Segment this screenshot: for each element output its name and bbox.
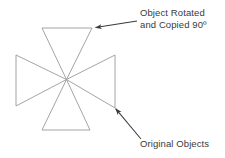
rotated-object-label-line2: and Copied 90º <box>140 19 207 31</box>
rotated-callout-arrow <box>96 21 138 28</box>
top-triangle <box>42 28 92 80</box>
pinwheel-shape-group <box>16 28 115 130</box>
rotated-object-label: Object Rotated and Copied 90º <box>140 7 207 30</box>
rotated-object-label-line1: Object Rotated <box>140 7 207 19</box>
bottom-triangle <box>42 80 90 131</box>
diagram-canvas: Object Rotated and Copied 90º Original O… <box>0 0 225 158</box>
right-triangle <box>67 55 116 108</box>
original-callout-arrow <box>116 109 141 139</box>
original-objects-label: Original Objects <box>140 138 209 150</box>
callout-arrow-group <box>96 21 142 139</box>
original-objects-label-line1: Original Objects <box>140 138 209 150</box>
